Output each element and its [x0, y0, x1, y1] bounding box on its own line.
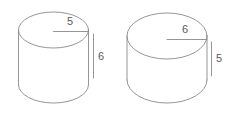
right-cylinder-radius-label: 6 [182, 23, 188, 35]
right-cylinder-height-label: 5 [216, 52, 222, 64]
right-cylinder: 6 5 [127, 13, 222, 103]
right-cylinder-bottom-arc [127, 80, 207, 103]
left-cylinder: 5 6 [19, 12, 105, 103]
cylinder-diagram-canvas: 5 6 6 5 [0, 0, 234, 113]
left-cylinder-top-ellipse [19, 12, 89, 48]
left-cylinder-bottom-arc [19, 85, 89, 103]
left-cylinder-height-label: 6 [98, 50, 104, 62]
left-cylinder-radius-label: 5 [67, 15, 73, 27]
cylinders-figure: 5 6 6 5 [0, 0, 234, 113]
right-cylinder-top-ellipse [127, 13, 207, 59]
